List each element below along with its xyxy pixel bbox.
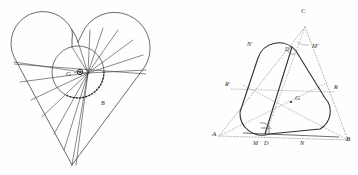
figure-sheet: G B [0,0,358,175]
heart-chord [14,62,88,73]
label-vertex-C: C [301,7,306,15]
heart-radiating-lines-group [14,28,146,165]
triangle-side-AC [219,27,305,136]
median-lines-group [219,27,348,140]
heart-chord [88,30,118,73]
heart-outline-group [11,12,150,165]
heart-left-lobe [11,12,72,165]
heart-chord [88,30,90,73]
heart-cusp [72,30,78,42]
label-point-D-prime: D' [284,46,291,52]
label-heart-G: G [66,70,71,78]
rounded-triangle-figure-svg: C A B G N' M' D' R' R M D N [179,0,358,175]
label-vertex-B: B [346,135,351,143]
heart-chord [88,40,133,73]
label-point-R: R [333,84,338,90]
label-point-M-prime: M' [311,43,319,49]
rounded-triangle-curve [240,43,330,135]
label-point-N: N [299,140,305,146]
construction-triangle-group [219,27,348,140]
label-point-D: D [263,140,269,146]
label-vertex-A: A [211,130,217,138]
label-centroid-G: G [295,94,300,102]
label-point-N-prime: N' [246,41,253,47]
heart-right-lobe [72,12,150,165]
centroid-point [290,101,292,103]
label-point-M: M [252,140,259,146]
heart-figure-svg: G B [0,0,179,175]
heart-chord [88,28,103,73]
center-point-dot [79,71,81,73]
rounded-triangle-figure-panel: C A B G N' M' D' R' R M D N [179,0,358,175]
label-point-R-prime: R' [224,81,231,87]
heart-figure-panel: G B [0,0,179,175]
label-heart-B: B [101,100,105,106]
